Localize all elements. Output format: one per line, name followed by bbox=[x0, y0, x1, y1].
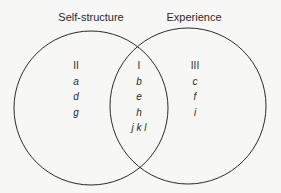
self-structure-label: Self-structure bbox=[58, 11, 123, 23]
region-overlap-numeral: I bbox=[132, 58, 147, 74]
region-left-item: g bbox=[73, 105, 79, 121]
region-overlap-item: b bbox=[132, 74, 147, 90]
experience-label: Experience bbox=[166, 11, 221, 23]
region-right-item: f bbox=[191, 89, 199, 105]
region-right: III c f i bbox=[191, 58, 199, 120]
region-left-item: a bbox=[73, 74, 79, 90]
region-left-item: d bbox=[73, 89, 79, 105]
region-overlap: I b e h j k l bbox=[132, 58, 147, 136]
region-right-item: c bbox=[191, 74, 199, 90]
region-left-numeral: II bbox=[73, 58, 79, 74]
region-overlap-item: j k l bbox=[132, 120, 147, 136]
region-overlap-item: h bbox=[132, 105, 147, 121]
region-right-numeral: III bbox=[191, 58, 199, 74]
region-overlap-item: e bbox=[132, 89, 147, 105]
region-left: II a d g bbox=[73, 58, 79, 120]
region-right-item: i bbox=[191, 105, 199, 121]
